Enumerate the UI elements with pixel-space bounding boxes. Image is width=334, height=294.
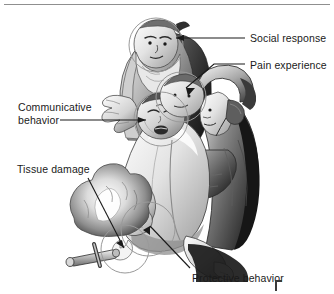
label-communicative-behavior-line2: behavior [18, 114, 59, 126]
label-social-response: Social response [250, 32, 326, 45]
corner-crop-mark [275, 280, 282, 291]
fire-and-logs [66, 164, 152, 267]
label-protective-behavior: Protective behavior [192, 272, 284, 285]
label-tissue-damage: Tissue damage [17, 163, 90, 176]
label-pain-experience: Pain experience [250, 59, 327, 72]
label-communicative-behavior: Communicative behavior [18, 101, 92, 126]
pain-model-figure: Social response Pain experience Communic… [0, 0, 334, 294]
label-communicative-behavior-line1: Communicative [18, 101, 92, 113]
